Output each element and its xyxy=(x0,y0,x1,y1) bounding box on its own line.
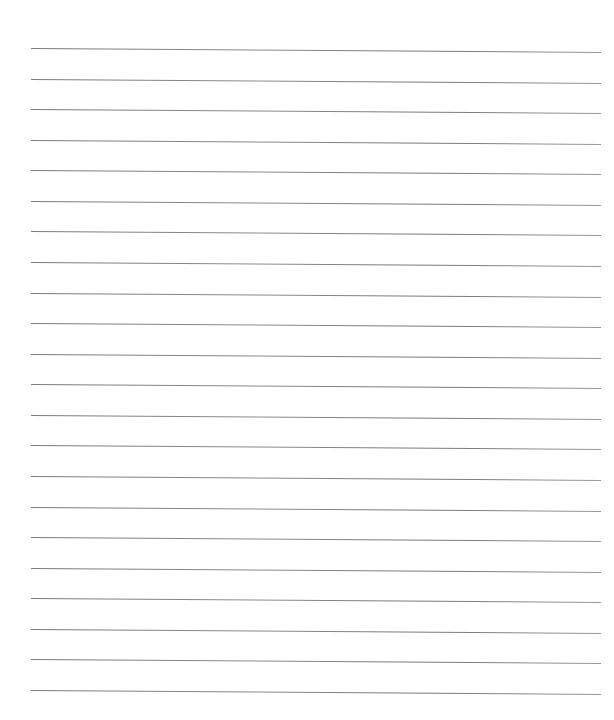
ruled-line xyxy=(31,79,601,84)
ruled-line xyxy=(31,262,601,267)
ruled-line xyxy=(31,445,601,450)
ruled-line xyxy=(31,507,601,512)
ruled-line xyxy=(31,293,601,298)
lined-paper-page xyxy=(0,0,614,720)
ruled-line xyxy=(31,415,601,420)
ruled-line xyxy=(31,170,601,175)
ruled-line xyxy=(31,48,601,53)
ruled-line xyxy=(31,568,601,573)
ruled-line xyxy=(31,231,601,236)
ruled-line xyxy=(31,598,601,603)
ruled-line xyxy=(31,140,601,145)
ruled-line xyxy=(31,354,601,359)
ruled-line xyxy=(31,384,601,389)
ruled-line xyxy=(31,537,601,542)
ruled-line xyxy=(31,690,601,695)
ruled-line xyxy=(31,109,601,114)
ruled-line xyxy=(31,323,601,328)
ruled-line xyxy=(31,659,601,664)
ruled-line xyxy=(31,201,601,206)
ruled-line xyxy=(31,476,601,481)
ruled-line xyxy=(31,629,601,634)
